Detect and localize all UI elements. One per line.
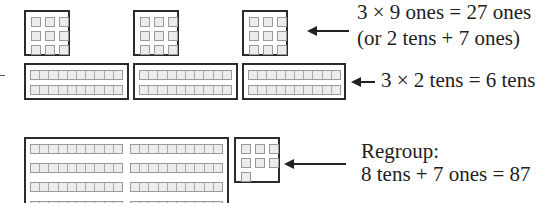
- regroup-result: 8 tens + 7 ones = 87: [361, 163, 531, 186]
- unit-cube: [249, 45, 259, 55]
- ten-rod: [130, 201, 223, 203]
- unit-cube: [31, 31, 41, 41]
- unit-cube: [140, 45, 150, 55]
- remaining-ones-cells: [241, 144, 279, 182]
- unit-cube: [263, 31, 273, 41]
- unit-cube: [263, 45, 273, 55]
- ones-cells: [31, 17, 69, 55]
- regroup-heading: Regroup:: [361, 140, 439, 163]
- unit-cube: [59, 31, 69, 41]
- unit-cube: [154, 17, 164, 27]
- unit-cube: [140, 31, 150, 41]
- ones-cells: [249, 17, 287, 55]
- ten-rod: [248, 70, 341, 80]
- ones-group-2: [133, 10, 179, 56]
- unit-cube: [241, 158, 251, 168]
- unit-cube: [249, 31, 259, 41]
- unit-cube: [255, 158, 265, 168]
- unit-cube: [255, 144, 265, 154]
- unit-cube: [249, 17, 259, 27]
- unit-cube: [140, 17, 150, 27]
- ones-group-3: [242, 10, 288, 56]
- ones-product-label: 3 × 9 ones = 27 ones: [357, 1, 531, 24]
- ten-rod: [130, 182, 223, 192]
- ten-rod: [30, 85, 123, 95]
- ten-rod: [130, 144, 223, 154]
- ten-rod: [248, 85, 341, 95]
- unit-cube: [59, 45, 69, 55]
- left-edge-dash: [0, 75, 5, 76]
- tens-group-3: [242, 63, 346, 100]
- unit-cube: [59, 17, 69, 27]
- unit-cube: [154, 45, 164, 55]
- arrow-left-icon: [309, 30, 349, 32]
- unit-cube: [154, 31, 164, 41]
- regrouped-tens-box: [24, 137, 229, 203]
- unit-cube: [45, 45, 55, 55]
- unit-cube: [31, 45, 41, 55]
- unit-cube: [263, 17, 273, 27]
- unit-cube: [277, 45, 287, 55]
- unit-cube: [277, 17, 287, 27]
- ten-rod: [30, 163, 123, 173]
- unit-cube: [45, 31, 55, 41]
- unit-cube: [269, 158, 279, 168]
- unit-cube: [168, 45, 178, 55]
- tens-product-label: 3 × 2 tens = 6 tens: [381, 69, 535, 92]
- unit-cube: [241, 172, 251, 182]
- tens-group-2: [133, 63, 238, 100]
- unit-cube: [31, 17, 41, 27]
- ten-rod: [30, 201, 123, 203]
- arrow-left-icon: [286, 163, 346, 165]
- ten-rod: [139, 70, 232, 80]
- ten-rod: [30, 70, 123, 80]
- unit-cube: [45, 17, 55, 27]
- arrow-left-icon: [353, 81, 375, 83]
- unit-cube: [168, 17, 178, 27]
- ones-group-1: [24, 10, 70, 56]
- ones-cells: [140, 17, 178, 55]
- regrouped-ones-box: [234, 137, 280, 183]
- unit-cube: [277, 31, 287, 41]
- ten-rod: [130, 163, 223, 173]
- ones-regroup-note: (or 2 tens + 7 ones): [357, 27, 520, 50]
- ten-rod: [30, 182, 123, 192]
- unit-cube: [241, 144, 251, 154]
- ten-rod: [139, 85, 232, 95]
- tens-group-1: [24, 63, 129, 100]
- unit-cube: [269, 144, 279, 154]
- unit-cube: [168, 31, 178, 41]
- ten-rod: [30, 144, 123, 154]
